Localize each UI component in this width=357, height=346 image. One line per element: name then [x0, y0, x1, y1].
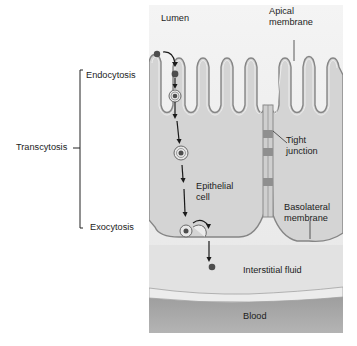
- molecule-endocytosis: [172, 71, 179, 78]
- interstitial-fluid-label: Interstitial fluid: [243, 265, 302, 276]
- tight-junction-1: [263, 130, 273, 138]
- tight-junction-label: Tight junction: [286, 135, 318, 157]
- tight-junction-2: [263, 148, 273, 156]
- blood-label: Blood: [243, 311, 267, 322]
- lumen-label: Lumen: [161, 13, 189, 24]
- basolateral-membrane-label: Basolateral membrane: [284, 202, 330, 224]
- epithelial-cell-label: Epithelial cell: [196, 181, 233, 203]
- transcytosis-label: Transcytosis: [16, 142, 67, 153]
- molecule-lumen: [154, 51, 160, 57]
- molecule-interstitial: [209, 264, 216, 271]
- endocytosis-label: Endocytosis: [86, 70, 136, 81]
- epithelium-diagram: Lumen Apical membrane Tight junction Epi…: [149, 5, 343, 333]
- exocytosis-label: Exocytosis: [90, 222, 134, 233]
- tight-junction-3: [263, 178, 273, 186]
- apical-membrane-label: Apical membrane: [269, 6, 313, 28]
